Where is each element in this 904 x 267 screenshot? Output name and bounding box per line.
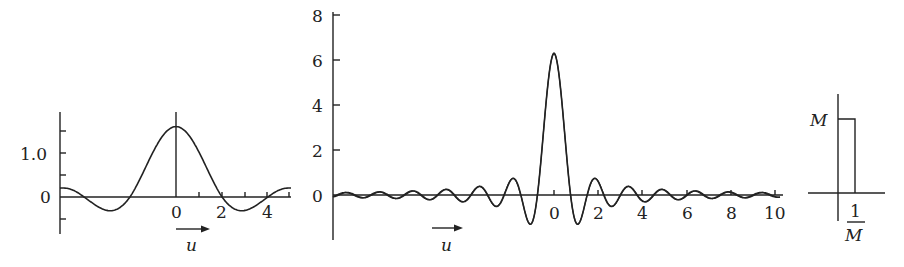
right-height-label: M <box>809 110 828 130</box>
left-y-label-0: 0 <box>40 187 51 207</box>
left-chart: 1.0 0 0 2 4 u <box>20 112 291 255</box>
middle-curve <box>333 53 780 224</box>
left-y-label-1: 1.0 <box>20 144 47 164</box>
middle-y-label-4: 4 <box>312 96 323 116</box>
middle-x-label-4: 4 <box>637 203 648 223</box>
left-arrowhead-icon <box>201 226 210 233</box>
middle-axis-var: u <box>441 235 452 255</box>
middle-y-label-2: 2 <box>312 141 323 161</box>
middle-arrowhead-icon <box>454 225 463 232</box>
middle-x-label-10: 10 <box>764 203 786 223</box>
middle-y-label-8: 8 <box>312 6 323 26</box>
middle-chart: 8 6 4 2 0 0 2 4 6 8 10 u <box>312 6 786 255</box>
figure-canvas: 1.0 0 0 2 4 u 8 6 4 2 0 0 2 4 6 8 10 <box>0 0 904 267</box>
left-axis-var: u <box>186 235 197 255</box>
right-width-denominator: M <box>844 225 863 245</box>
middle-x-label-0: 0 <box>549 203 560 223</box>
right-box-function <box>838 119 855 193</box>
middle-x-label-6: 6 <box>682 203 693 223</box>
middle-x-label-2: 2 <box>593 203 604 223</box>
right-chart: M 1 M <box>808 94 885 245</box>
left-x-label-2: 2 <box>216 202 227 222</box>
left-x-label-4: 4 <box>262 202 273 222</box>
middle-x-label-8: 8 <box>726 203 737 223</box>
left-x-label-0: 0 <box>171 202 182 222</box>
middle-y-label-0: 0 <box>312 186 323 206</box>
middle-y-label-6: 6 <box>312 51 323 71</box>
right-width-numerator: 1 <box>850 201 861 221</box>
